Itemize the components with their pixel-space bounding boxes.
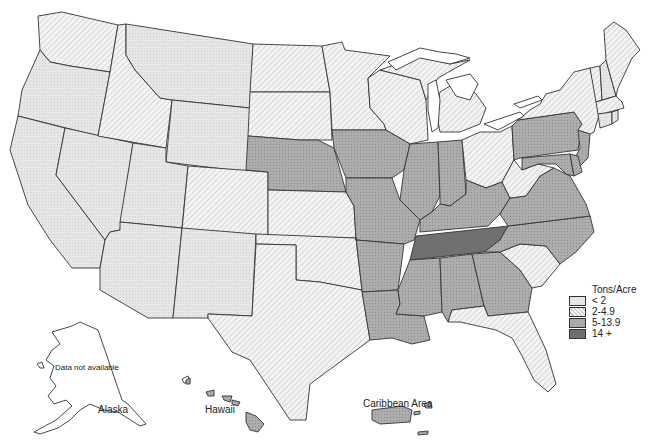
state-rhode-island [612,110,618,124]
legend-item-14plus: 14 + [569,328,636,339]
state-indiana [438,140,466,206]
caribbean-island [414,411,420,415]
legend-item-lt2: < 2 [569,295,636,306]
caribbean-label: Caribbean Area [363,398,433,409]
state-colorado [182,166,268,236]
state-mississippi [396,258,442,316]
alaska-no-data-note: Data not available [55,363,119,372]
legend: Tons/Acre < 2 2-4.9 5-13.9 14 + [569,284,636,339]
state-new-mexico [173,228,256,318]
state-wyoming [166,100,250,172]
legend-swatch-2-4.9 [569,307,586,317]
alaska-island [37,362,44,368]
legend-title: Tons/Acre [592,284,636,295]
legend-label: < 2 [592,296,606,306]
legend-swatch-5-13.9 [569,318,586,328]
state-south-dakota [248,92,332,140]
alaska [34,322,146,434]
legend-item-5-13.9: 5-13.9 [569,317,636,328]
state-arkansas [356,238,404,292]
legend-label: 2-4.9 [592,307,615,317]
state-connecticut [598,112,612,128]
us-erosion-map [0,0,650,442]
lake-michigan [428,80,440,132]
caribbean-island [418,431,428,435]
state-iowa [332,130,410,178]
legend-label: 14 + [592,329,612,339]
alaska-label: Alaska [98,404,128,415]
legend-item-2-4.9: 2-4.9 [569,306,636,317]
state-north-dakota [250,44,330,92]
legend-swatch-14plus [569,329,586,339]
state-florida [448,306,556,392]
legend-label: 5-13.9 [592,318,620,328]
state-arizona [100,222,182,318]
state-kansas [268,190,356,238]
legend-swatch-lt2 [569,296,586,306]
hawaii-label: Hawaii [205,404,235,415]
